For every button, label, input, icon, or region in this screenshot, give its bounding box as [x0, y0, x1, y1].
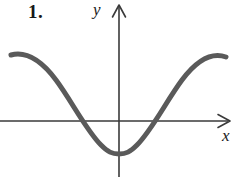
coordinate-plot [0, 0, 241, 179]
y-axis-label: y [93, 1, 101, 18]
graph-figure: 1. y x [0, 0, 241, 179]
x-axis [0, 115, 230, 128]
x-axis-label: x [222, 127, 230, 144]
